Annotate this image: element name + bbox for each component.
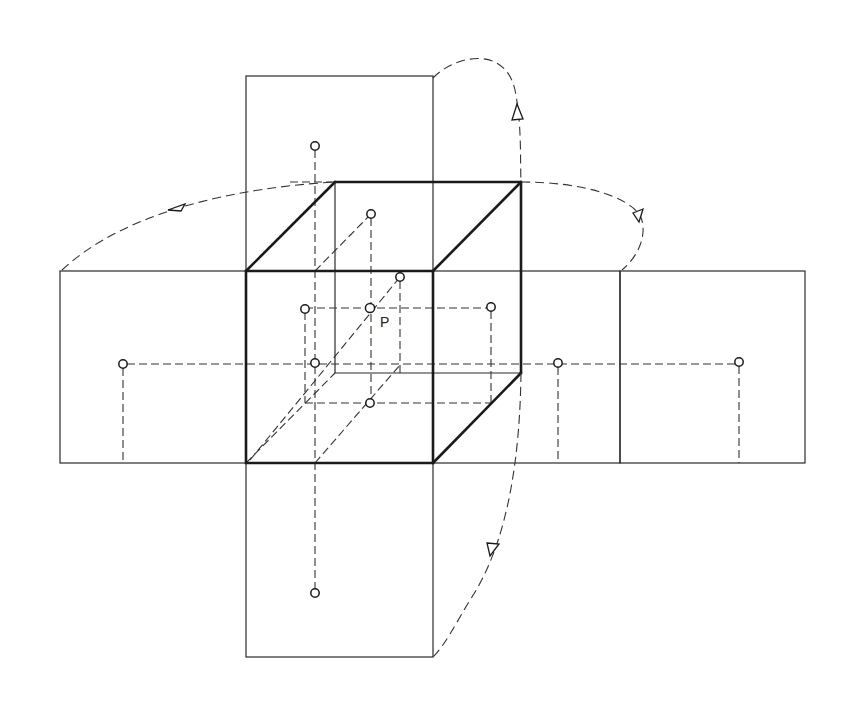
left-panel	[60, 271, 246, 463]
point-top-panel	[311, 142, 319, 150]
fold-arc-top	[433, 58, 521, 182]
point-right-panel-2	[735, 358, 743, 366]
point-cube-bottom	[366, 399, 374, 407]
projection-lines	[123, 150, 739, 589]
point-P	[365, 303, 374, 312]
point-cube-right	[487, 303, 495, 311]
arrow-up-icon	[512, 104, 523, 120]
fold-arcs	[62, 58, 643, 657]
arrowheads	[168, 104, 643, 556]
fold-arc-bottom	[433, 373, 521, 657]
right-panel-2	[620, 271, 805, 463]
point-cube-left	[311, 359, 319, 367]
projection-points	[119, 142, 743, 597]
fold-arc-left	[62, 182, 335, 270]
fold-arc-right	[521, 182, 643, 270]
point-cube-top	[367, 210, 375, 218]
arrow-left-icon	[168, 204, 185, 211]
point-bottom-panel	[311, 589, 319, 597]
point-right-panel-1	[554, 359, 562, 367]
point-label-P: P	[380, 314, 389, 330]
point-cube-top-front	[396, 273, 404, 281]
bottom-panel	[246, 463, 433, 657]
point-left-panel	[119, 360, 127, 368]
cube-projection-diagram: P	[0, 0, 843, 708]
point-cube-left-upper	[301, 305, 309, 313]
